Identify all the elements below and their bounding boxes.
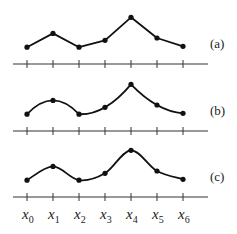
x-label: x1 [47, 206, 60, 225]
data-point [128, 15, 133, 20]
data-point [50, 31, 55, 36]
x-label-subscript: 0 [29, 214, 34, 225]
data-point [154, 102, 159, 107]
data-point [102, 171, 107, 176]
x-label-subscript: 4 [133, 214, 138, 225]
data-point [180, 111, 185, 116]
x-label-subscript: 1 [55, 214, 60, 225]
x-label: x2 [73, 206, 86, 225]
data-point [180, 177, 185, 182]
panel-label: (b) [210, 103, 225, 118]
data-point [76, 112, 81, 117]
x-label-subscript: 5 [159, 214, 164, 225]
panel-a: (a) [13, 15, 224, 68]
x-label-subscript: 3 [107, 214, 112, 225]
data-point [50, 98, 55, 103]
panel-b: (b) [13, 82, 225, 135]
data-point [24, 112, 29, 117]
x-label: x3 [99, 206, 112, 225]
data-point [24, 45, 29, 50]
data-point [24, 178, 29, 183]
interpolation-curve [27, 150, 183, 180]
panel-c: (c) [13, 148, 224, 201]
x-label: x5 [151, 206, 164, 225]
data-point [180, 44, 185, 49]
x-label-subscript: 6 [185, 214, 190, 225]
x-label: x6 [177, 206, 190, 225]
x-label: x0 [21, 206, 34, 225]
x-label-subscript: 2 [81, 214, 86, 225]
data-point [154, 35, 159, 40]
x-label: x4 [125, 206, 138, 225]
data-point [128, 148, 133, 153]
interpolation-diagram: (a)(b)(c)x0x1x2x3x4x5x6 [0, 0, 237, 234]
data-point [102, 105, 107, 110]
panel-label: (c) [210, 169, 224, 184]
data-point [154, 168, 159, 173]
data-point [76, 178, 81, 183]
panel-label: (a) [210, 36, 224, 51]
data-point [102, 38, 107, 43]
data-point [128, 82, 133, 87]
data-point [50, 164, 55, 169]
data-point [76, 45, 81, 50]
